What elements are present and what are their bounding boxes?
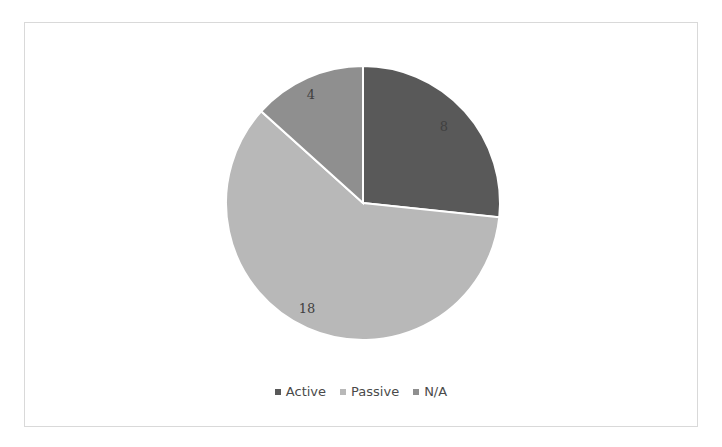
legend-item-passive[interactable]: Passive — [340, 384, 399, 399]
label-passive: 18 — [299, 301, 316, 316]
legend-swatch-active-icon — [275, 389, 281, 395]
legend-swatch-na-icon — [413, 389, 419, 395]
chart-legend: Active Passive N/A — [0, 384, 722, 399]
legend-swatch-passive-icon — [340, 389, 346, 395]
pie-chart: 8 4 18 — [0, 0, 722, 447]
label-active: 8 — [440, 119, 448, 134]
legend-label-passive: Passive — [351, 384, 399, 399]
label-na: 4 — [307, 87, 315, 102]
legend-item-active[interactable]: Active — [275, 384, 326, 399]
legend-item-na[interactable]: N/A — [413, 384, 447, 399]
legend-label-active: Active — [286, 384, 326, 399]
legend-label-na: N/A — [424, 384, 447, 399]
slice-active[interactable] — [363, 66, 500, 217]
